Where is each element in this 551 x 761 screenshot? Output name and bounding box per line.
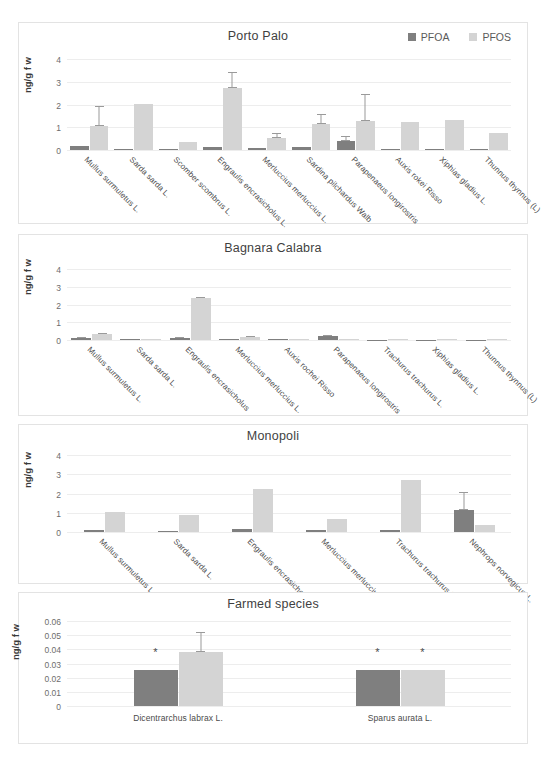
bar-wrapper-pfos [437,269,457,340]
bar-wrapper-pfoa [84,455,104,532]
bar-pfoa [268,339,288,340]
bar-wrapper-pfos [267,59,286,150]
bar-wrapper-pfos [475,455,495,532]
bar-pfoa [203,147,222,150]
bar-wrapper-pfoa [306,455,326,532]
x-axis-tick: Engraulis encrasicholus L. [200,153,244,221]
bar-wrapper-pfoa [292,59,311,150]
bar-pfoa [318,336,338,340]
x-axis-labels: Mullus surmuletus L.Sarda sarda L.Engrau… [67,535,511,585]
bar-pfoa [84,530,104,533]
x-axis-tick: Trachurus trachurus L. [363,535,437,585]
x-axis-labels: Mullus surmuletus L.Sarda sarda L.Engrau… [67,343,511,415]
error-bar [200,297,201,299]
bar-wrapper-pfos [327,455,347,532]
bar-pfoa [114,149,133,150]
bar-pfoa [306,530,326,532]
bar-wrapper-pfos [223,59,242,150]
y-tick: 1 [56,123,61,133]
chart-title: Farmed species [19,597,527,611]
x-axis-labels: Dicentrarchus labrax L.Sparus aurata L. [67,709,511,735]
chart-panel-bagnara-calabra: Bagnara Calabra ng/g f w 4 3 2 1 0 Mullu… [18,234,528,416]
x-axis-tick: Trachurus trachurus L. [363,343,412,415]
chart-panel-farmed-species: Farmed species ng/g f w 0.06 0.05 0.04 0… [18,592,528,744]
bar-wrapper-pfos [289,269,309,340]
bar-wrapper-pfoa [120,269,140,340]
x-axis-tick-label: Sparus aurata L. [289,713,511,723]
bar-group [289,59,333,150]
bar-group [462,269,511,340]
bar-pfos [437,339,457,340]
bar-wrapper-pfos [179,59,198,150]
y-tick: 0.01 [44,688,61,698]
bar-wrapper-pfos [356,59,375,150]
bar-group [215,269,264,340]
error-bar [327,335,328,336]
y-tick: 3 [56,78,61,88]
bar-group [363,455,437,532]
bar-group [166,269,215,340]
x-axis-tick: Sparus aurata L. [289,709,511,735]
bar-pfoa [470,149,489,150]
bar-group [333,59,377,150]
y-tick: 2 [56,490,61,500]
x-axis-labels: Mullus surmuletus L.Sarda sarda L.Scombe… [67,153,511,221]
x-axis-tick: Xiphias gladius L. [422,153,466,221]
bar-wrapper-pfoa [318,269,338,340]
chart-title: Monopoli [19,429,527,443]
bar-pfoa [158,531,178,532]
chart-title: Bagnara Calabra [19,241,527,255]
bar-wrapper-pfoa [470,59,489,150]
bar-pfoa [70,146,89,150]
y-tick: 0 [56,336,61,346]
bar-pfoa [120,339,140,340]
bar-wrapper-pfoa [367,269,387,340]
error-bar [345,136,346,141]
bar-pfos [105,512,125,532]
bar-wrapper-pfos [141,269,161,340]
y-tick: 2 [56,101,61,111]
y-axis-label: ng/g f w [21,259,33,295]
bar-pfos [134,104,153,150]
bar-pfos [267,138,286,150]
y-axis-label: ng/g f w [9,624,21,660]
x-axis-tick: Thunnus thynnus (L) [467,153,511,221]
bar-wrapper-pfoa [248,59,267,150]
error-bar [102,333,103,334]
y-tick: 0 [56,702,61,712]
bar-wrapper-pfoa [70,59,89,150]
bar-wrapper-pfos [489,59,508,150]
bar-pfos [445,120,464,150]
y-tick: 2 [56,301,61,311]
y-tick: 0 [56,146,61,156]
y-tick: 4 [56,265,61,275]
y-tick: 0.05 [44,631,61,641]
x-axis-tick: Sarda sarda L. [116,343,165,415]
x-axis-tick: Sardina pilchardus Walb [289,153,333,221]
chart-legend: PFOA PFOS [408,31,511,43]
bar-group [412,269,461,340]
bar-pfos [489,133,508,150]
bar-pfos [401,480,421,532]
x-axis-tick: Auxis rokei Risso [378,153,422,221]
chart-panel-porto-palo: Porto Palo PFOA PFOS ng/g f w 4 3 2 1 0 … [18,22,528,224]
bar-wrapper-pfos: * [401,621,445,706]
bar-pfos [179,515,199,532]
plot-area: 4 3 2 1 0 [67,455,511,533]
x-axis-tick-label: Dicentrarchus labrax L. [67,713,289,723]
y-axis-label: ng/g f w [21,57,33,93]
error-bar [179,337,180,338]
bar-pfoa [134,670,178,706]
bar-pfoa [292,147,311,150]
bar-groups [67,269,511,340]
bar-group [67,59,111,150]
bar-wrapper-pfoa [466,269,486,340]
bar-group [116,269,165,340]
bar-wrapper-pfoa [170,269,190,340]
bar-wrapper-pfoa [381,59,400,150]
bar-wrapper-pfoa [425,59,444,150]
y-tick: 1 [56,318,61,328]
y-tick: 0 [56,528,61,538]
significance-marker: * [420,647,424,658]
bar-wrapper-pfoa [416,269,436,340]
